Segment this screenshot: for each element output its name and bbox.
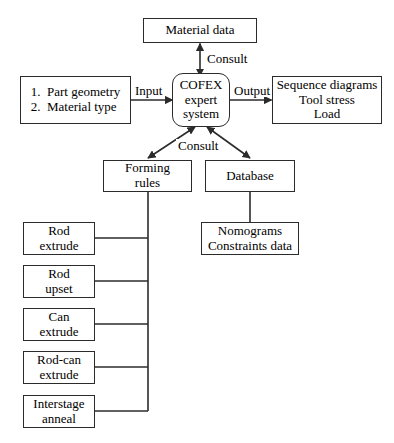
node-nomograms-label: Nomograms Constraints data — [205, 224, 295, 253]
node-rod-can-extrude-label: Rod-can extrude — [34, 353, 84, 382]
node-material-data-label: Material data — [163, 23, 238, 38]
node-interstage-anneal-label: Interstage anneal — [30, 397, 87, 426]
node-part-inputs[interactable]: 1. Part geometry 2. Material type — [20, 76, 131, 124]
node-outputs[interactable]: Sequence diagrams Tool stress Load — [272, 76, 382, 124]
node-rod-can-extrude[interactable]: Rod-can extrude — [23, 351, 95, 384]
node-rod-extrude[interactable]: Rod extrude — [23, 222, 95, 255]
node-outputs-label: Sequence diagrams Tool stress Load — [274, 78, 381, 122]
node-rod-upset[interactable]: Rod upset — [23, 265, 95, 298]
node-database-label: Database — [223, 169, 277, 184]
node-cofex-expert-system[interactable]: COFEX expert system — [172, 73, 230, 127]
node-interstage-anneal[interactable]: Interstage anneal — [23, 395, 95, 428]
node-nomograms[interactable]: Nomograms Constraints data — [201, 222, 299, 255]
edge-label-consult-top: Consult — [205, 52, 249, 65]
node-can-extrude-label: Can extrude — [37, 310, 82, 339]
flowchart-diagram: Material data 1. Part geometry 2. Materi… — [0, 0, 394, 443]
node-database[interactable]: Database — [205, 160, 295, 192]
node-rod-extrude-label: Rod extrude — [37, 224, 82, 253]
node-forming-rules[interactable]: Forming rules — [103, 160, 192, 192]
node-material-data[interactable]: Material data — [143, 18, 257, 43]
node-forming-rules-label: Forming rules — [122, 161, 173, 190]
node-part-inputs-label: 1. Part geometry 2. Material type — [28, 85, 124, 114]
node-can-extrude[interactable]: Can extrude — [23, 308, 95, 341]
edge-label-output: Output — [232, 84, 272, 97]
edge-label-consult-bottom: Consult — [176, 139, 220, 152]
edge-label-input: Input — [133, 84, 164, 97]
node-cofex-expert-system-label: COFEX expert system — [177, 78, 226, 122]
node-rod-upset-label: Rod upset — [42, 267, 75, 296]
